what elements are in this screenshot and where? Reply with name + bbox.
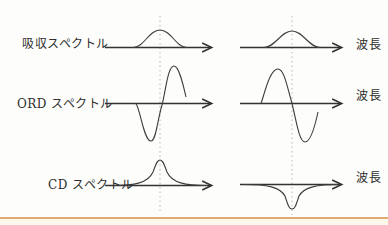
row-label-ord: ORD スペクトル [17, 98, 113, 111]
wavelength-label-row2: 波長 [356, 90, 381, 103]
row-label-absorption: 吸収スペクトル [22, 38, 109, 51]
cd-row [105, 160, 341, 209]
footer-strip [0, 219, 388, 225]
absorption-row [105, 30, 341, 48]
ord-row [105, 66, 341, 142]
wavelength-label-row3: 波長 [356, 172, 381, 185]
wavelength-label-row1: 波長 [356, 39, 381, 52]
spectra-diagram: 吸収スペクトル ORD スペクトル CD スペクトル 波長 波長 波長 [0, 0, 388, 225]
ord-curve-right [261, 69, 318, 142]
row-label-cd: CD スペクトル [48, 179, 134, 192]
